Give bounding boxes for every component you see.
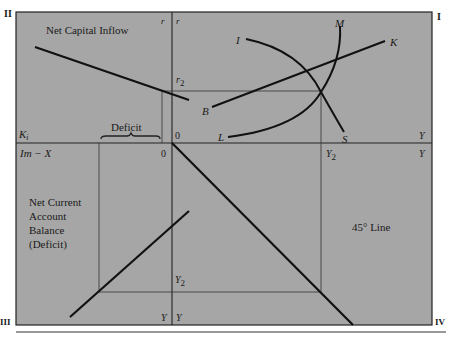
bp-curve-label-b: B xyxy=(202,105,209,117)
current-account-title-line1: Net Current xyxy=(29,196,81,208)
capital-inflow-title: Net Capital Inflow xyxy=(46,24,129,36)
deficit-label: Deficit xyxy=(111,121,142,133)
current-account-title-line3: Balance xyxy=(29,224,65,236)
diagram-frame xyxy=(16,12,432,325)
islm-bp-diagram: II I III IV Net Capital Inflow Deficit N… xyxy=(0,0,451,337)
current-account-title-line4: (Deficit) xyxy=(29,238,67,251)
r-axis-label-right: r xyxy=(176,16,180,26)
origin-label-upper: 0 xyxy=(175,130,180,141)
bp-curve-label-k: K xyxy=(389,36,398,48)
origin-label-left: 0 xyxy=(161,148,166,159)
lm-curve-label-l: L xyxy=(217,131,224,143)
current-account-title-line2: Account xyxy=(29,210,66,222)
quadrant-label-iii: III xyxy=(0,317,11,327)
im-minus-x-label: Im − X xyxy=(19,147,53,159)
r-axis-label-left: r xyxy=(161,16,165,26)
45-degree-line-label: 45° Line xyxy=(352,221,390,233)
quadrant-label-i: I xyxy=(437,11,441,22)
quadrant-label-ii: II xyxy=(4,8,12,19)
lm-curve-label-m: M xyxy=(334,17,345,29)
quadrant-label-iv: IV xyxy=(435,317,446,327)
is-curve-label-s: S xyxy=(342,133,348,145)
